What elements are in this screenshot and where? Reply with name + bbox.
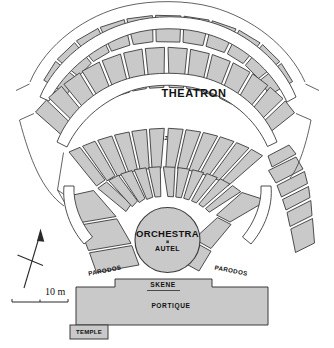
scale-bar-label: 10 m: [45, 286, 66, 297]
theatron-label: THEATRON: [161, 87, 226, 99]
theater-plan-figure: DIAZOMA: [0, 0, 334, 348]
altar-label: AUTEL: [155, 245, 180, 252]
scale-bar: 10 m: [12, 286, 68, 302]
compass-crossbar: [18, 255, 44, 266]
temple-label: TEMPLE: [76, 329, 102, 335]
orchestra-label: ORCHESTRA: [136, 228, 199, 239]
north-arrow-compass: [18, 229, 45, 289]
portique-label: PORTIQUE: [151, 302, 190, 310]
orchestra-circle: [135, 208, 200, 273]
temple-building: TEMPLE: [70, 325, 108, 339]
skene-portique-building: SKENE PORTIQUE: [76, 279, 268, 325]
parodos-right-label: PARODOS: [214, 264, 248, 277]
orchestra-group: ORCHESTRA AUTEL: [135, 208, 200, 273]
altar-marker: [166, 241, 169, 244]
compass-north-head: [37, 229, 44, 242]
theater-plan-svg: DIAZOMA: [0, 0, 334, 348]
skene-label: SKENE: [150, 281, 176, 288]
